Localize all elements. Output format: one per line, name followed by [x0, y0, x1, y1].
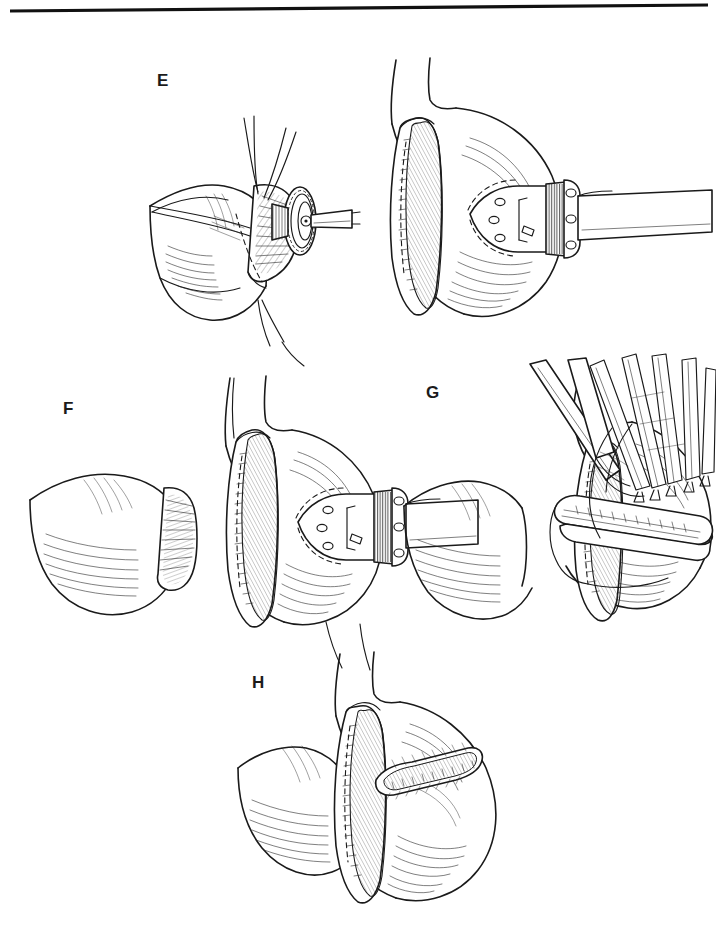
anvil-shaft	[311, 210, 360, 228]
linear-stapler-jaw[interactable]	[550, 495, 713, 587]
panel-label-h: H	[252, 674, 264, 691]
linear-staple-line	[390, 118, 442, 315]
bowel-segment	[30, 474, 197, 614]
figure-page: .ln { fill:none; stroke:#1a1a1a; stroke-…	[0, 0, 716, 930]
panel-H	[238, 652, 496, 903]
linear-staple-line	[226, 430, 278, 627]
circular-stapler-cartridge[interactable]	[468, 180, 580, 258]
transverse-staple-line	[376, 743, 483, 801]
panel-label-f: F	[63, 400, 74, 417]
panel-G	[404, 354, 716, 621]
panel-label-e: E	[157, 72, 169, 89]
stapler-shaft	[406, 499, 478, 548]
panel-E	[150, 58, 712, 366]
circular-stapler-cartridge[interactable]	[296, 488, 408, 566]
panel-F	[30, 376, 478, 670]
stapler-shaft	[578, 190, 712, 240]
horizontal-rule	[10, 5, 708, 11]
panel-label-g: G	[426, 384, 439, 401]
vertical-staple-line	[334, 703, 386, 903]
figure-illustration: .ln { fill:none; stroke:#1a1a1a; stroke-…	[0, 0, 716, 930]
